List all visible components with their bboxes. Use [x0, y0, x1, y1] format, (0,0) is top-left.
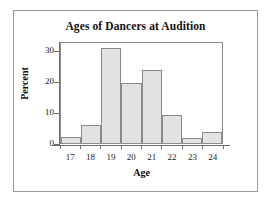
histogram-bar	[202, 132, 222, 144]
histogram-bar	[81, 125, 101, 143]
x-axis-tick-mark	[60, 145, 61, 149]
y-axis-tick-label: 20	[20, 76, 54, 86]
x-axis-tick-label: 24	[203, 152, 223, 164]
x-axis-tick-mark	[202, 145, 203, 149]
x-axis-tick-mark	[80, 145, 81, 149]
y-axis-tick-label: 10	[20, 107, 54, 117]
x-axis-tick-label: 19	[101, 152, 121, 164]
x-axis-tick-cell	[121, 145, 141, 150]
y-axis-tick-mark	[54, 51, 59, 52]
x-axis-tick-mark	[223, 145, 224, 149]
y-axis-tick-mark	[54, 82, 59, 83]
x-axis-tick-cell	[60, 145, 80, 150]
x-axis-tick-label: 21	[142, 152, 162, 164]
bars-container	[61, 43, 222, 143]
y-axis-tick-mark	[54, 113, 59, 114]
x-axis-tick-cell	[162, 145, 182, 150]
histogram-figure: Ages of Dancers at Audition Percent 0102…	[0, 0, 273, 204]
x-axis-tick-mark	[161, 145, 162, 149]
histogram-bar	[182, 138, 202, 143]
x-axis-tick-cell	[142, 145, 162, 150]
histogram-bar	[61, 137, 81, 143]
y-axis-tick-labels: 0102030	[14, 0, 54, 204]
x-axis-tick-label: 18	[80, 152, 100, 164]
x-axis-tick-labels: 1718192021222324	[60, 152, 223, 164]
x-axis-tick-label: 20	[121, 152, 141, 164]
x-axis-tick-mark	[182, 145, 183, 149]
x-axis-tick-mark	[141, 145, 142, 149]
x-axis-tick-mark	[121, 145, 122, 149]
x-axis-tick-label: 17	[60, 152, 80, 164]
x-axis-tick-cell	[182, 145, 202, 150]
x-axis-tick-label: 22	[162, 152, 182, 164]
x-axis-title: Age	[60, 167, 223, 178]
x-axis-tick-cell	[101, 145, 121, 150]
x-axis-tick-mark	[100, 145, 101, 149]
y-axis-tick-label: 30	[20, 45, 54, 55]
histogram-bar	[121, 83, 141, 143]
histogram-bar	[142, 70, 162, 143]
x-axis-tick-cell	[80, 145, 100, 150]
x-axis-tick-label: 23	[182, 152, 202, 164]
histogram-bar	[162, 115, 182, 143]
y-axis-tick-label: 0	[20, 138, 54, 148]
x-axis-ticks	[60, 145, 223, 150]
plot-area	[60, 42, 223, 144]
x-axis-tick-cell	[203, 145, 223, 150]
histogram-bar	[101, 48, 121, 143]
